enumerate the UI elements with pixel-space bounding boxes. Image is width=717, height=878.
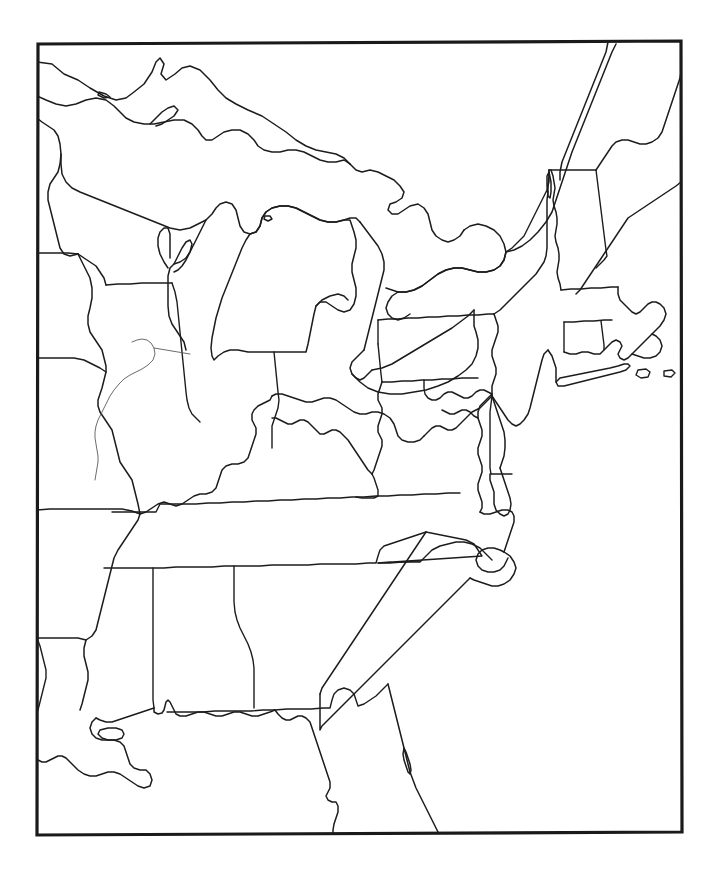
outline-map-graphic xyxy=(0,0,717,878)
page-background xyxy=(0,0,717,878)
map-page xyxy=(0,0,717,878)
